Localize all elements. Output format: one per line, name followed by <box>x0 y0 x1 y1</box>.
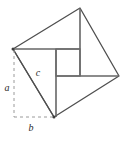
geometry-figure: a b c <box>0 0 126 144</box>
label-a: a <box>5 82 10 93</box>
label-b: b <box>29 122 34 133</box>
vertex-bottom-dot <box>53 116 56 119</box>
pythagorean-pinwheel-diagram: a b c <box>0 0 126 144</box>
label-c: c <box>36 67 41 78</box>
hypotenuse-c <box>13 49 54 117</box>
tilted-square-outline <box>13 8 119 117</box>
center-square <box>56 49 80 76</box>
vertex-left-dot <box>12 48 15 51</box>
